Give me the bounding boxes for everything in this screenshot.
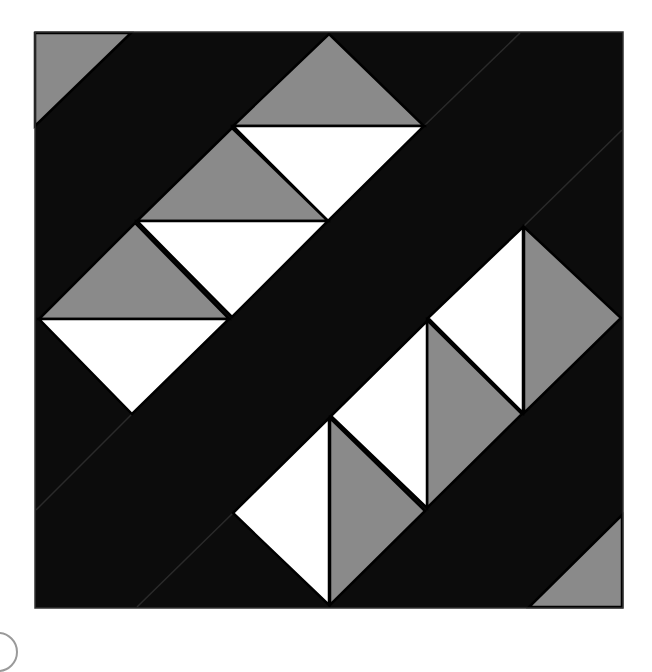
quilt-block-diagram bbox=[0, 0, 652, 639]
